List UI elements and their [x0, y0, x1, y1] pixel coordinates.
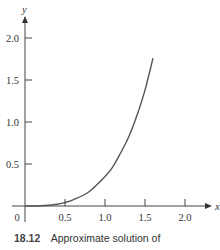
x-tick-label: 1.0	[98, 212, 111, 223]
tick-labels: xy00.51.01.52.00.51.01.52.0	[6, 4, 220, 223]
caption-text: Approximate solution of	[51, 232, 161, 244]
origin-label: 0	[14, 212, 19, 223]
x-tick-label: 0.5	[58, 212, 71, 223]
axes	[12, 16, 212, 222]
x-tick-label: 1.5	[138, 212, 151, 223]
y-tick-label: 2.0	[6, 33, 19, 44]
solution-curve	[25, 58, 153, 206]
caption-number: 18.12	[14, 232, 40, 244]
x-axis-label: x	[214, 201, 220, 212]
x-axis-arrow-icon	[205, 203, 212, 209]
y-tick-label: 1.5	[6, 75, 19, 86]
ticks	[25, 38, 185, 206]
figure-caption: 18.12 Approximate solution of	[14, 232, 160, 244]
y-axis-label: y	[21, 4, 27, 15]
y-tick-label: 1.0	[6, 117, 19, 128]
y-tick-label: 0.5	[6, 159, 19, 170]
chart: xy00.51.01.52.00.51.01.52.0	[0, 0, 220, 230]
y-axis-arrow-icon	[22, 16, 28, 23]
x-tick-label: 2.0	[178, 212, 191, 223]
